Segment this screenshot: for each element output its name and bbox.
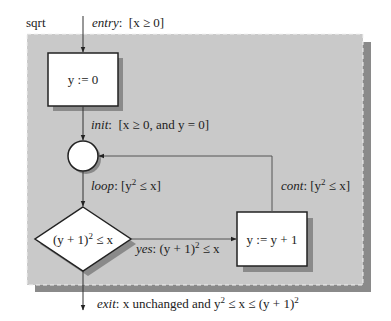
incr-box-label: y := y + 1: [247, 232, 298, 247]
init-box-label: y := 0: [68, 72, 98, 87]
junction-node: [68, 141, 98, 171]
cont-label: cont: [y2 ≤ x]: [281, 177, 350, 193]
entry-label: entry: [x ≥ 0]: [92, 15, 164, 30]
flowchart: sqrt entry: [x ≥ 0] y := 0 init: [x ≥ 0,…: [0, 0, 391, 321]
loop-label: loop: [y2 ≤ x]: [91, 177, 161, 193]
procedure-name: sqrt: [26, 15, 46, 30]
exit-label: exit: x unchanged and y2 ≤ x ≤ (y + 1)2: [97, 295, 299, 311]
yes-label: yes: (y + 1)2 ≤ x: [134, 240, 220, 256]
init-label: init: [x ≥ 0, and y = 0]: [91, 117, 209, 132]
test-diamond-label: (y + 1)2 ≤ x: [53, 231, 114, 247]
